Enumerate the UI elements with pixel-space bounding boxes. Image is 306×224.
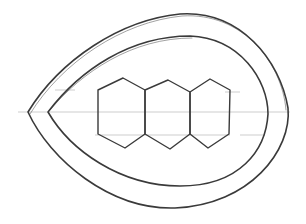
sketch-drawing xyxy=(0,0,306,224)
hexagon-2 xyxy=(145,80,190,149)
inner-teardrop-outline xyxy=(48,36,268,186)
hexagon-1 xyxy=(98,78,145,148)
sketch-canvas xyxy=(0,0,306,224)
hexagon-3 xyxy=(190,79,230,148)
outer-teardrop-outline xyxy=(28,14,288,208)
